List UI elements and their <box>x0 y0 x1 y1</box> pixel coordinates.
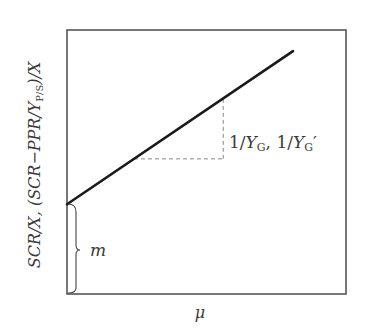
y-axis-label: SCR/X, (SCR−PPR/YP/S)/X <box>25 61 45 268</box>
chart: m 1/YG, 1/YG′ μ SCR/X, (SCR−PPR/YP/S)/X <box>0 0 370 332</box>
intercept-brace <box>68 204 80 293</box>
series-line <box>67 51 293 204</box>
x-axis-label: μ <box>195 303 205 322</box>
intercept-label: m <box>90 240 106 260</box>
plot-frame <box>67 30 346 294</box>
slope-label: 1/YG, 1/YG′ <box>229 132 317 154</box>
